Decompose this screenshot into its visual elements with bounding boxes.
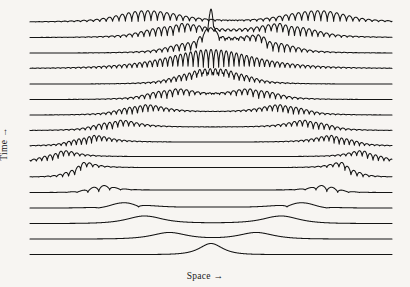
trace-row-9 [30, 105, 392, 115]
trace-row-5 [30, 162, 392, 177]
trace-row-2 [30, 216, 392, 224]
trace-collection [30, 9, 392, 254]
trace-row-0 [30, 244, 392, 255]
trace-row-3 [30, 203, 392, 208]
trace-row-10 [30, 89, 392, 100]
trace-row-6 [30, 151, 392, 162]
y-axis-label: Time → [0, 127, 9, 160]
trace-row-13 [30, 9, 392, 53]
trace-row-7 [30, 135, 392, 146]
trace-row-15 [30, 11, 392, 22]
trace-row-11 [30, 69, 392, 84]
waterfall-figure: Time → Space → [0, 0, 410, 287]
trace-row-4 [30, 186, 392, 193]
trace-row-1 [30, 232, 392, 239]
space-time-plot [0, 0, 410, 287]
x-axis-label: Space → [0, 271, 410, 281]
trace-row-14 [30, 23, 392, 37]
trace-row-8 [30, 120, 392, 130]
